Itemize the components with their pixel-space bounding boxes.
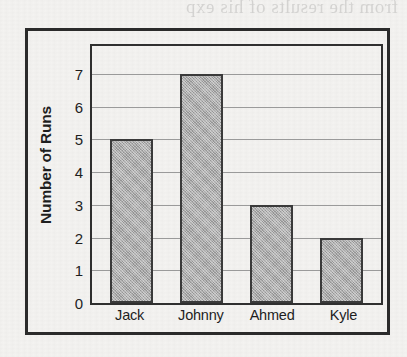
y-axis-title-text: Number of Runs	[37, 106, 55, 224]
bar-slot-ahmed	[237, 46, 307, 303]
y-tick-label-2: 2	[75, 229, 83, 246]
x-tick-label-ahmed: Ahmed	[237, 307, 308, 331]
bar-jack	[110, 139, 153, 303]
bar-ahmed	[250, 205, 293, 303]
y-axis-title: Number of Runs	[30, 31, 62, 299]
bar-johnny	[180, 74, 223, 303]
x-tick-label-johnny: Johnny	[165, 307, 236, 331]
bar-slot-kyle	[307, 46, 377, 303]
chart-outer-frame: Number of Runs 76543210 JackJohnnyAhmedK…	[25, 28, 390, 335]
bar-chart: Number of Runs 76543210 JackJohnnyAhmedK…	[28, 31, 387, 332]
scan-bleed-through-text: from the results of his exp	[58, 0, 398, 30]
bar-slot-johnny	[166, 46, 236, 303]
x-tick-label-kyle: Kyle	[308, 307, 379, 331]
x-tick-label-jack: Jack	[94, 307, 165, 331]
y-tick-label-7: 7	[75, 66, 83, 83]
plot-inner	[92, 46, 381, 303]
y-tick-label-0: 0	[75, 295, 83, 312]
y-tick-label-5: 5	[75, 131, 83, 148]
x-axis-tick-labels: JackJohnnyAhmedKyle	[90, 307, 383, 331]
plot-area	[90, 44, 383, 305]
bars-container	[92, 46, 381, 303]
y-tick-label-3: 3	[75, 196, 83, 213]
y-tick-label-6: 6	[75, 98, 83, 115]
y-tick-label-1: 1	[75, 262, 83, 279]
bar-slot-jack	[96, 46, 166, 303]
y-tick-label-4: 4	[75, 164, 83, 181]
y-axis-tick-labels: 76543210	[61, 44, 85, 305]
bar-kyle	[320, 238, 363, 303]
